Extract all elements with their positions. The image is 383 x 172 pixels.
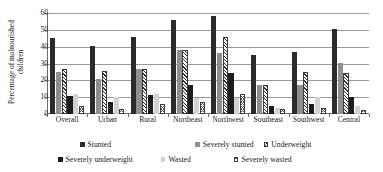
legend-label: Severely wasted bbox=[241, 156, 291, 164]
bar bbox=[131, 37, 136, 114]
bar bbox=[234, 98, 239, 114]
bar bbox=[292, 52, 297, 114]
bar bbox=[343, 73, 348, 114]
x-tick-label: Northwest bbox=[208, 115, 248, 124]
bar bbox=[309, 104, 314, 114]
bar bbox=[257, 85, 262, 114]
bar bbox=[79, 106, 84, 114]
legend-item[interactable]: Underweight bbox=[264, 141, 312, 149]
bar bbox=[171, 20, 176, 114]
bar-group bbox=[87, 13, 127, 114]
bar bbox=[315, 97, 320, 114]
legend-swatch-icon bbox=[264, 142, 269, 147]
bar bbox=[142, 69, 147, 114]
bar bbox=[136, 69, 141, 114]
legend-swatch-icon bbox=[195, 142, 200, 147]
bar bbox=[355, 106, 360, 114]
bar bbox=[361, 110, 366, 114]
legend-item[interactable]: Severely wasted bbox=[234, 156, 292, 164]
legend-swatch-icon bbox=[234, 157, 239, 162]
bar bbox=[275, 108, 280, 114]
bar-group bbox=[329, 13, 369, 114]
bar bbox=[96, 79, 101, 114]
x-tick-label: Urban bbox=[87, 115, 127, 124]
bar bbox=[280, 109, 285, 114]
bar-group bbox=[248, 13, 288, 114]
bar bbox=[114, 97, 119, 114]
legend-row-1: StuntedSeverely stuntedUnderweight bbox=[58, 137, 368, 152]
bar bbox=[56, 72, 61, 114]
bar-group bbox=[128, 13, 168, 114]
x-tick-label: Central bbox=[329, 115, 369, 124]
bar bbox=[228, 73, 233, 114]
bar bbox=[62, 69, 67, 114]
bar bbox=[188, 85, 193, 114]
bar-chart: Percentage of malnourished children 0102… bbox=[0, 0, 383, 172]
legend-swatch-icon bbox=[80, 142, 85, 147]
legend-item[interactable]: Severely stunted bbox=[195, 141, 254, 149]
bar-group bbox=[208, 13, 248, 114]
bar bbox=[73, 94, 78, 114]
bar bbox=[349, 97, 354, 114]
x-tick-label: Northeast bbox=[168, 115, 208, 124]
x-tick-label: Southeast bbox=[248, 115, 288, 124]
bar bbox=[211, 16, 216, 114]
bar bbox=[223, 37, 228, 114]
bar bbox=[297, 85, 302, 114]
legend-item[interactable]: Wasted bbox=[161, 156, 191, 164]
x-tick-label: Rural bbox=[128, 115, 168, 124]
bar bbox=[269, 106, 274, 114]
bar bbox=[177, 50, 182, 114]
legend-label: Wasted bbox=[168, 156, 190, 164]
legend-swatch-icon bbox=[58, 157, 63, 162]
x-tick-label: Overall bbox=[47, 115, 87, 124]
bar bbox=[338, 63, 343, 114]
legend-label: Stunted bbox=[88, 141, 112, 149]
y-axis-title-line1: Percentage of malnourished bbox=[7, 20, 16, 104]
bar bbox=[160, 104, 165, 114]
bar bbox=[321, 108, 326, 114]
legend: StuntedSeverely stuntedUnderweight Sever… bbox=[58, 137, 368, 167]
bar bbox=[108, 102, 113, 114]
bar bbox=[240, 94, 245, 114]
bar bbox=[119, 109, 124, 114]
bar bbox=[50, 38, 55, 114]
bar-group bbox=[289, 13, 329, 114]
legend-label: Underweight bbox=[271, 141, 311, 149]
bar bbox=[154, 94, 159, 114]
bar bbox=[251, 55, 256, 114]
bar bbox=[332, 29, 337, 114]
x-tick-label: Southwest bbox=[289, 115, 329, 124]
legend-item[interactable]: Severely underweight bbox=[58, 156, 133, 164]
legend-item[interactable]: Stunted bbox=[80, 141, 111, 149]
legend-label: Severely underweight bbox=[66, 156, 133, 164]
bar-group bbox=[47, 13, 87, 114]
plot-area: 0102030405060 bbox=[47, 13, 369, 114]
bar bbox=[194, 98, 199, 114]
x-tick-labels: OverallUrbanRuralNortheastNorthwestSouth… bbox=[47, 115, 369, 124]
x-tick-mark bbox=[369, 114, 370, 117]
bar bbox=[263, 85, 268, 114]
bar bbox=[90, 46, 95, 114]
bar bbox=[303, 72, 308, 114]
bar bbox=[148, 95, 153, 114]
bar bbox=[67, 96, 72, 114]
legend-label: Severely stunted bbox=[203, 141, 254, 149]
bar bbox=[200, 102, 205, 114]
bar bbox=[182, 50, 187, 114]
bar bbox=[102, 71, 107, 114]
bar bbox=[217, 53, 222, 114]
legend-row-2: Severely underweightWastedSeverely waste… bbox=[58, 152, 368, 167]
bar-groups bbox=[47, 13, 369, 114]
bar-group bbox=[168, 13, 208, 114]
legend-swatch-icon bbox=[161, 157, 166, 162]
